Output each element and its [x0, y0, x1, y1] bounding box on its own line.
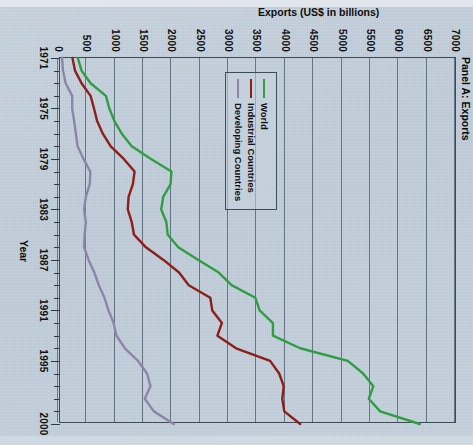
legend-swatch	[264, 79, 266, 98]
legend-item-developing-countries: Developing Countries	[232, 79, 245, 201]
chart-figure: Panel A: Exports 05001000150020002500300…	[0, 0, 473, 445]
series-line-developing-countries	[62, 58, 174, 424]
legend-item-world: World	[258, 79, 271, 201]
y-tick-label: 0	[53, 46, 64, 52]
y-tick-label: 7000	[450, 29, 461, 52]
legend-label: Industrial Countries	[246, 103, 257, 193]
y-tick-label: 2500	[194, 29, 205, 52]
legend: WorldIndustrial CountriesDeveloping Coun…	[225, 72, 277, 210]
y-tick-label: 4500	[308, 29, 319, 52]
legend-swatch	[238, 79, 240, 98]
y-tick-label: 1000	[109, 29, 120, 52]
y-tick-label: 500	[81, 35, 92, 52]
y-tick-label: 6500	[421, 29, 432, 52]
panel-title: Panel A: Exports	[460, 57, 472, 141]
x-tick-major	[51, 424, 60, 425]
x-tick-label: 1975	[38, 97, 49, 120]
x-tick-label: 1971	[38, 46, 49, 69]
y-tick-label: 6000	[393, 29, 404, 52]
y-tick-label: 4000	[279, 29, 290, 52]
legend-item-industrial-countries: Industrial Countries	[245, 79, 258, 201]
y-tick-label: 5500	[364, 29, 375, 52]
x-tick-label: 1991	[38, 299, 49, 322]
x-tick-label: 1987	[38, 248, 49, 271]
y-tick-label: 5000	[336, 29, 347, 52]
x-tick-label: 1979	[38, 147, 49, 170]
y-tick-label: 1500	[138, 29, 149, 52]
x-tick-label: 1983	[38, 198, 49, 221]
x-tick-label: 1995	[38, 349, 49, 372]
x-tick-label: 2000	[38, 412, 49, 435]
legend-swatch	[251, 79, 253, 98]
rotated-figure-stage: Panel A: Exports 05001000150020002500300…	[0, 0, 473, 445]
legend-label: World	[259, 103, 270, 130]
x-axis-title: Year	[18, 240, 30, 262]
y-axis-title: Exports (US$ in billions)	[258, 6, 379, 18]
y-tick-label: 2000	[166, 29, 177, 52]
legend-label: Developing Countries	[233, 103, 244, 201]
y-tick-label: 3500	[251, 29, 262, 52]
y-tick-label: 3000	[223, 29, 234, 52]
